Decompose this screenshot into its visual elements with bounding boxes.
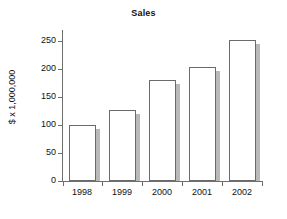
plot-area: 050100150200250 19981999200020012002 (62, 30, 262, 181)
x-tick-label: 2001 (182, 187, 222, 198)
y-tick-label: 50 (46, 147, 56, 158)
y-tick-mark (58, 41, 62, 42)
y-tick-label: 100 (41, 119, 56, 130)
bar[interactable] (69, 125, 96, 181)
bar[interactable] (109, 110, 136, 181)
y-axis-label: $ x 1,000,000 (7, 52, 17, 142)
x-tick-mark (222, 181, 223, 186)
bar[interactable] (189, 67, 216, 181)
x-tick-label: 1998 (62, 187, 102, 198)
bar[interactable] (149, 80, 176, 181)
chart-figure: Sales $ x 1,000,000 050100150200250 1998… (0, 0, 287, 219)
x-tick-mark (262, 181, 263, 186)
y-tick-mark (58, 97, 62, 98)
y-tick-label: 150 (41, 91, 56, 102)
x-tick-label: 2000 (142, 187, 182, 198)
y-tick-mark (58, 69, 62, 70)
y-tick-label: 0 (51, 175, 56, 186)
y-tick-mark (58, 153, 62, 154)
x-tick-mark (142, 181, 143, 186)
y-axis-line (62, 30, 63, 181)
chart-title: Sales (0, 8, 287, 18)
x-tick-mark (63, 181, 64, 186)
y-tick-label: 200 (41, 63, 56, 74)
x-axis-line (62, 181, 262, 182)
x-tick-label: 1999 (102, 187, 142, 198)
y-tick-label: 250 (41, 35, 56, 46)
y-tick-mark (58, 181, 62, 182)
x-tick-mark (102, 181, 103, 186)
bar[interactable] (229, 40, 256, 181)
x-tick-mark (182, 181, 183, 186)
x-tick-label: 2002 (222, 187, 262, 198)
y-tick-mark (58, 125, 62, 126)
